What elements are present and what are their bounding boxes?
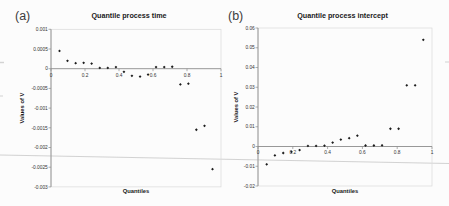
data-point — [90, 62, 93, 65]
x-tick-label: 0.4 — [324, 150, 331, 155]
data-point — [195, 128, 198, 131]
chart-svg-b: 0.060.050.040.030.020.010-0.01-0.0200.20… — [225, 0, 449, 206]
chart-title: Quantile process intercept — [297, 11, 388, 20]
data-point — [265, 163, 268, 166]
y-tick-label: 0.06 — [245, 26, 255, 31]
x-tick-label: 0.6 — [359, 150, 366, 155]
x-tick-label: 0.6 — [150, 73, 157, 78]
plot-frame — [51, 29, 221, 187]
chart-svg-a: 0.0010.00050-0.0005-0.001-0.0015-0.002-0… — [0, 0, 225, 206]
data-point — [389, 127, 392, 130]
y-tick-label: -0.0025 — [32, 165, 49, 170]
data-point — [187, 82, 190, 85]
y-tick-label: -0.003 — [34, 185, 48, 190]
data-point — [139, 75, 142, 78]
data-point — [171, 65, 174, 68]
data-point — [211, 168, 214, 171]
plot-frame — [258, 28, 432, 186]
y-tick-label: 0.05 — [245, 45, 255, 50]
x-tick-label: 0.8 — [394, 150, 401, 155]
y-tick-label: -0.02 — [244, 184, 255, 189]
panel-letter-label: (a) — [15, 9, 30, 23]
y-tick-label: 0 — [45, 66, 48, 71]
chart-panel-a: 0.0010.00050-0.0005-0.001-0.0015-0.002-0… — [0, 0, 225, 206]
data-point — [298, 149, 301, 152]
data-point — [82, 61, 85, 64]
y-tick-label: 0.03 — [245, 85, 255, 90]
x-tick-label: 1 — [431, 150, 434, 155]
data-point — [74, 62, 77, 65]
x-tick-label: 1 — [220, 73, 223, 78]
data-point — [422, 38, 425, 41]
x-tick-label: 0 — [257, 150, 260, 155]
chart-panel-b: 0.060.050.040.030.020.010-0.01-0.0200.20… — [225, 0, 449, 206]
x-tick-label: 0 — [50, 73, 53, 78]
chart-title: Quantile process time — [91, 11, 166, 20]
x-axis-title: Quantiles — [123, 188, 149, 194]
x-tick-label: 0.8 — [184, 73, 191, 78]
x-axis-title: Quantiles — [332, 188, 358, 194]
x-tick-label: 0.4 — [116, 73, 123, 78]
y-tick-label: -0.0005 — [32, 86, 49, 91]
data-point — [405, 84, 408, 87]
y-tick-label: -0.01 — [244, 164, 255, 169]
data-point — [273, 154, 276, 157]
data-point — [397, 127, 400, 130]
x-tick-label: 0.2 — [82, 73, 89, 78]
data-point — [58, 50, 61, 53]
y-tick-label: 0.001 — [36, 27, 48, 32]
y-tick-label: 0.0005 — [33, 47, 48, 52]
data-point — [131, 74, 134, 77]
y-axis-title: Values of V — [20, 93, 26, 124]
data-point — [115, 66, 118, 69]
y-axis-title: Values of V — [233, 91, 239, 122]
x-tick-label: 0.2 — [289, 150, 296, 155]
y-tick-label: 0.04 — [245, 65, 255, 70]
y-tick-label: -0.001 — [34, 106, 48, 111]
y-tick-label: 0.01 — [245, 124, 255, 129]
y-tick-label: -0.002 — [34, 145, 48, 150]
data-point — [66, 59, 69, 62]
data-point — [123, 70, 126, 73]
data-point — [331, 141, 334, 144]
data-point — [339, 138, 342, 141]
data-point — [163, 66, 166, 69]
data-point — [155, 66, 158, 69]
data-point — [414, 84, 417, 87]
data-point — [203, 124, 206, 127]
y-tick-label: 0 — [252, 144, 255, 149]
data-point — [356, 134, 359, 137]
figure-page: 0.0010.00050-0.0005-0.001-0.0015-0.002-0… — [0, 0, 449, 206]
data-point — [179, 83, 182, 86]
panel-letter-label: (b) — [228, 9, 243, 23]
y-tick-label: -0.0015 — [32, 126, 49, 131]
data-point — [282, 152, 285, 155]
data-point — [348, 137, 351, 140]
y-tick-label: 0.02 — [245, 105, 255, 110]
